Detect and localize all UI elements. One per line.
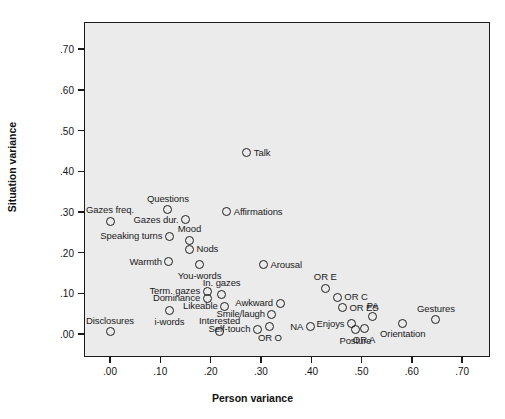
x-axis-tick-label: .40 [304, 366, 318, 377]
data-point-marker [333, 293, 342, 302]
x-axis-tick [109, 357, 110, 363]
x-axis-tick [411, 357, 412, 363]
data-point-label: Questions [147, 194, 189, 204]
y-axis-tick [78, 89, 84, 90]
y-axis-tick-label: .60 [34, 84, 74, 95]
data-point-marker [306, 322, 315, 331]
x-axis-tick-label: .00 [103, 366, 117, 377]
x-axis-tick [210, 357, 211, 363]
y-axis-tick [78, 293, 84, 294]
data-point-label: Orientation [380, 329, 425, 339]
data-point-label: i-words [154, 317, 184, 327]
data-point-marker [276, 299, 285, 308]
y-axis-tick [78, 171, 84, 172]
data-point-label: Warmth [130, 257, 162, 267]
data-point-marker [360, 324, 369, 333]
data-point-label: Likeable [183, 301, 218, 311]
y-axis-tick [78, 333, 84, 334]
y-axis-tick [78, 130, 84, 131]
y-axis-tick [78, 211, 84, 212]
y-axis-tick-label: .00 [34, 329, 74, 340]
y-axis-tick-label: .20 [34, 247, 74, 258]
data-point-label: Enjoys [317, 319, 345, 329]
data-point-label: Speaking turns [100, 231, 162, 241]
data-point-label: Talk [254, 148, 271, 158]
x-axis-tick-label: .50 [355, 366, 369, 377]
data-point-label: NA [290, 322, 303, 332]
data-point-label: OR A [353, 335, 375, 345]
data-point-label: Gazes freq. [86, 205, 134, 215]
data-point-label: Self-touch [209, 324, 251, 334]
x-axis-tick [160, 357, 161, 363]
x-axis-tick [260, 357, 261, 363]
y-axis-tick-label: .50 [34, 125, 74, 136]
y-axis-tick [78, 48, 84, 49]
data-point-label: Gazes dur. [133, 215, 178, 225]
data-point-marker [398, 319, 407, 328]
data-point-label: OR E [314, 272, 337, 282]
y-axis-tick [78, 252, 84, 253]
x-axis-tick [461, 357, 462, 363]
data-point-label: OR O [258, 333, 282, 343]
data-point-label: Nods [196, 244, 218, 254]
x-axis-tick [311, 357, 312, 363]
x-axis-tick-label: .60 [405, 366, 419, 377]
x-axis-tick [361, 357, 362, 363]
scatter-plot-figure: .00.10.20.30.40.50.60.70.00.10.20.30.40.… [0, 0, 505, 419]
x-axis-title: Person variance [0, 392, 505, 404]
data-point-label: Disclosures [86, 316, 134, 326]
data-point-label: PA [367, 301, 379, 311]
data-point-marker [338, 303, 347, 312]
data-point-marker [185, 245, 194, 254]
x-axis-tick-label: .10 [153, 366, 167, 377]
y-axis-tick-label: .10 [34, 288, 74, 299]
data-point-marker [217, 290, 226, 299]
data-point-label: Mood [178, 224, 201, 234]
y-axis-tick-label: .70 [34, 44, 74, 55]
data-point-marker [185, 236, 194, 245]
data-point-marker [165, 232, 174, 241]
data-point-label: In. gazes [203, 278, 241, 288]
y-axis-tick-label: .40 [34, 166, 74, 177]
data-point-marker [106, 327, 115, 336]
data-point-marker [106, 217, 115, 226]
y-axis-title: Situation variance [6, 97, 18, 237]
y-axis-tick-label: .30 [34, 206, 74, 217]
data-point-marker [321, 284, 330, 293]
x-axis-tick-label: .30 [254, 366, 268, 377]
data-point-label: Gestures [417, 304, 455, 314]
data-point-label: Awkward [235, 298, 273, 308]
x-axis-tick-label: .20 [204, 366, 218, 377]
x-axis-tick-label: .70 [455, 366, 469, 377]
data-point-label: Affirmations [234, 207, 283, 217]
data-point-label: Arousal [270, 260, 302, 270]
